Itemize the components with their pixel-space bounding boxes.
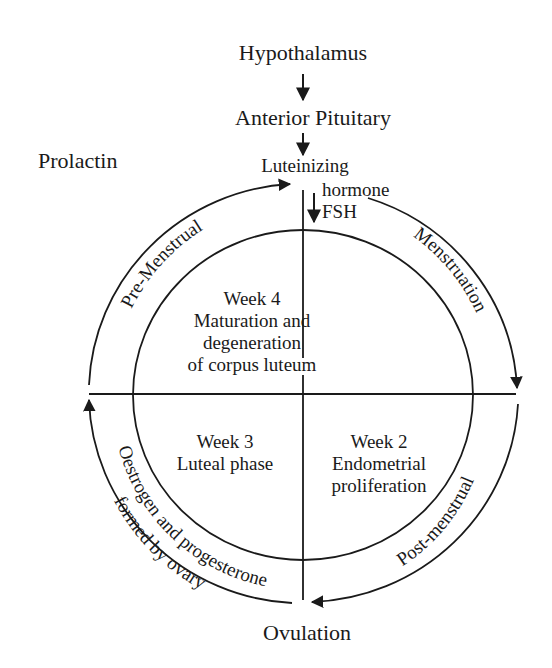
- post-menstrual-arrow: [312, 404, 518, 602]
- hypothalamus-label: Hypothalamus: [239, 40, 367, 65]
- luteinizing-label: Luteinizing: [261, 155, 349, 176]
- week3-title: Week 3: [196, 431, 253, 452]
- pre-menstrual-label: Pre-Menstrual: [116, 215, 205, 311]
- week4-line2: degeneration: [203, 332, 302, 353]
- menstruation-arrow: [368, 198, 517, 388]
- week2-line1: Endometrial: [332, 453, 426, 474]
- fsh-label: FSH: [322, 201, 357, 222]
- week2-title: Week 2: [350, 431, 407, 452]
- anterior-pituitary-label: Anterior Pituitary: [235, 105, 391, 130]
- menstrual-cycle-diagram: Hypothalamus Anterior Pituitary Luteiniz…: [0, 0, 552, 668]
- prolactin-label: Prolactin: [38, 148, 117, 173]
- menstruation-label: Menstruation: [410, 222, 492, 315]
- week2-line2: proliferation: [332, 475, 427, 496]
- ovulation-label: Ovulation: [263, 620, 351, 645]
- week3-line1: Luteal phase: [177, 453, 274, 474]
- hormone-label: hormone: [322, 179, 390, 200]
- week4-title: Week 4: [223, 288, 281, 309]
- week4-line3: of corpus luteum: [188, 354, 317, 375]
- week4-line1: Maturation and: [194, 310, 311, 331]
